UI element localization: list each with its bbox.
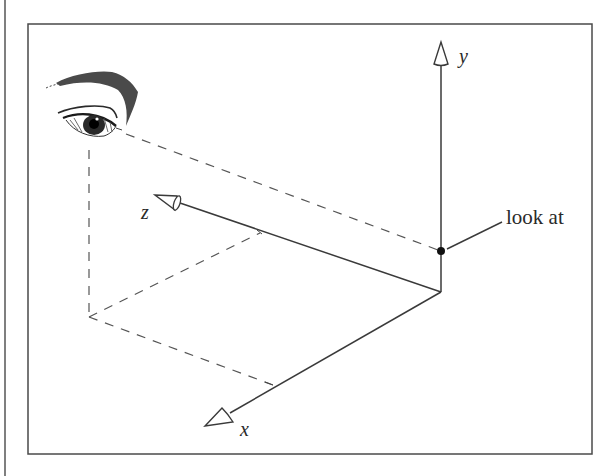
look-at-leader-line bbox=[447, 222, 502, 249]
x-axis-line bbox=[230, 292, 441, 413]
eye-icon bbox=[46, 71, 138, 136]
ground-to-x-axis bbox=[89, 317, 273, 385]
y-axis-label: y bbox=[457, 45, 468, 68]
camera-lookat-diagram: y z x look at bbox=[0, 0, 614, 476]
diagram-frame bbox=[28, 24, 592, 454]
y-arrowhead-icon bbox=[434, 42, 448, 66]
z-axis-line bbox=[180, 203, 441, 292]
projection-dashed-lines bbox=[89, 134, 438, 385]
x-axis-tick bbox=[265, 382, 273, 385]
ground-to-z-axis bbox=[89, 233, 260, 317]
look-at-point bbox=[437, 247, 445, 255]
z-axis-label: z bbox=[140, 201, 149, 223]
x-arrowhead-icon bbox=[205, 408, 233, 426]
line-of-sight bbox=[126, 134, 438, 250]
x-axis-label: x bbox=[239, 418, 249, 440]
axes bbox=[180, 63, 441, 413]
look-at-label: look at bbox=[506, 205, 564, 229]
z-arrowhead-icon bbox=[155, 195, 182, 211]
